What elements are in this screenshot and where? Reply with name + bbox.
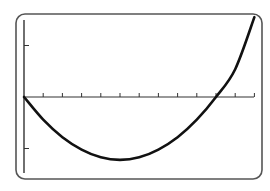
graph-window <box>0 0 270 191</box>
parabola-curve <box>24 17 254 160</box>
